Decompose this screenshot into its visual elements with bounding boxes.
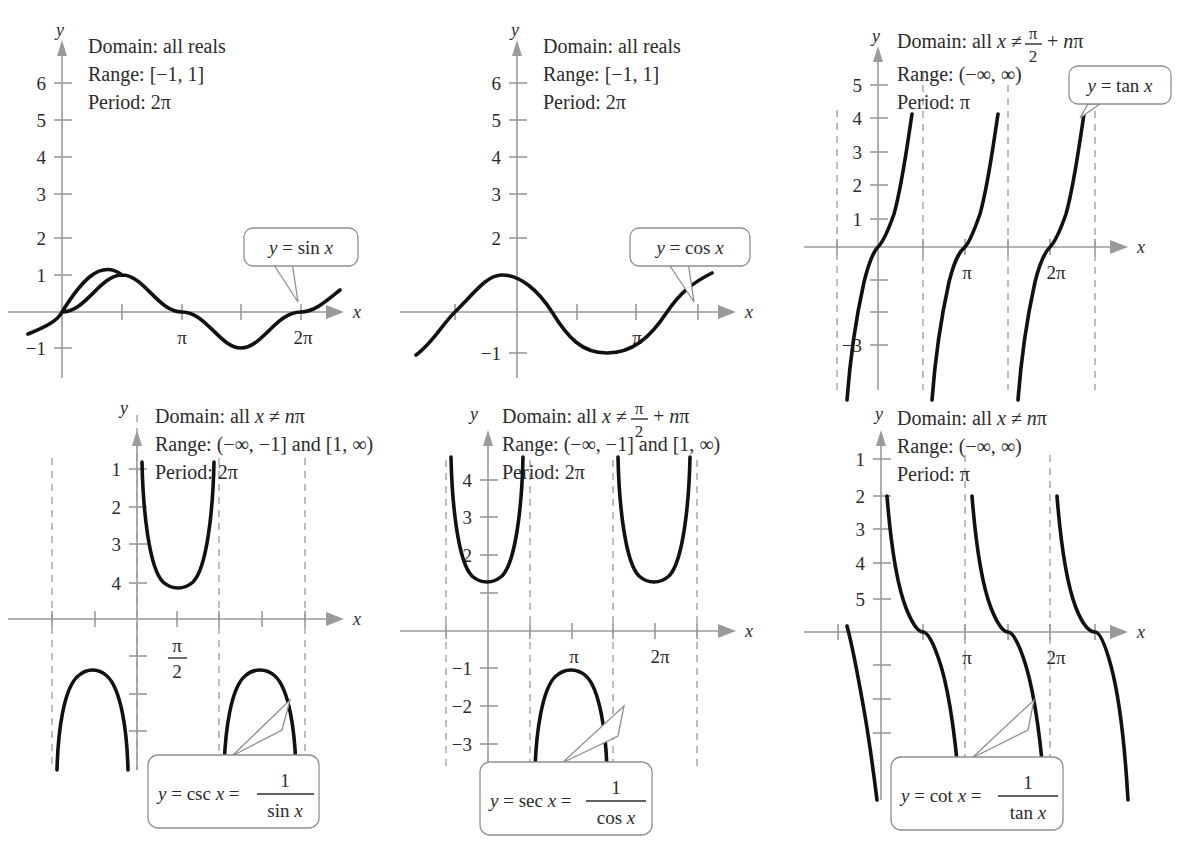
x-tick-label-2pi: 2π: [1046, 647, 1066, 668]
y-tick-label: 3: [856, 519, 866, 540]
y-tick-label: 4: [856, 553, 866, 574]
panel-tangent: 5 4 3 2 1 −3 π 2π x y: [784, 0, 1178, 400]
tangent-branch-2: [932, 114, 998, 400]
x-tick-label-pi: π: [177, 327, 187, 348]
fraction-numerator: 1: [611, 777, 621, 798]
panel-cotangent: 1 2 3 4 5 π 2π x y: [784, 400, 1178, 847]
y-axis-secant: [483, 430, 493, 770]
x-axis-label: x: [1136, 237, 1145, 257]
callout-label-cosine: y = cos x: [654, 237, 724, 258]
asymptotes-tangent: [837, 72, 1095, 390]
fraction-denominator: 2: [172, 661, 182, 682]
callout-cosine: y = cos x: [630, 228, 750, 302]
y-axis-label: y: [54, 20, 64, 40]
y-tick-label: 4: [853, 108, 863, 129]
x-axis-label: x: [744, 621, 753, 641]
info-cosecant: Domain: all x ≠ nπ Range: (−∞, −1] and […: [155, 405, 373, 483]
info-range: Range: [−1, 1]: [88, 63, 204, 86]
info-range: Range: (−∞, −1] and [1, ∞): [155, 433, 373, 456]
y-tick-label: 2: [37, 228, 47, 249]
fraction-numerator: 1: [1023, 772, 1033, 793]
x-axis-secant: [400, 624, 736, 638]
y-axis-cosecant: [132, 430, 142, 770]
tangent-branch-3: [1018, 114, 1084, 400]
info-range: Range: (−∞, ∞): [897, 435, 1022, 458]
y-tick-label: 5: [37, 110, 47, 131]
y-axis-label: y: [509, 20, 519, 40]
x-axis-label: x: [744, 302, 753, 322]
y-axis-label: y: [873, 404, 883, 424]
info-period: Period: π: [897, 463, 970, 485]
y-tick-label: 3: [112, 534, 122, 555]
info-domain: Domain: all x ≠ nπ: [155, 405, 305, 427]
cotangent-branch-2: [972, 496, 1045, 800]
info-domain: Domain: all x ≠: [502, 405, 627, 427]
y-tick-label: −1: [452, 658, 472, 679]
y-tick-label: 5: [492, 110, 502, 131]
y-axis-label: y: [468, 404, 478, 424]
info-domain: Domain: all x ≠: [897, 30, 1022, 52]
y-tick-label: 5: [856, 589, 866, 610]
info-range: Range: (−∞, ∞): [897, 63, 1022, 86]
fraction-numerator: π: [1029, 24, 1038, 43]
x-tick-label-2pi: 2π: [650, 646, 670, 667]
y-tick-label: 2: [112, 497, 122, 518]
info-tangent: Domain: all x ≠ π 2 + nπ Range: (−∞, ∞) …: [897, 24, 1083, 113]
asymptotes-secant: [446, 460, 697, 770]
y-tick-label: 1: [112, 459, 122, 480]
y-axis-cotangent: [876, 430, 886, 800]
cotangent-branch-1: [887, 496, 960, 800]
info-period: Period: π: [897, 91, 970, 113]
y-tick-label: 4: [37, 147, 47, 168]
info-period: Period: 2π: [543, 91, 626, 113]
domain-fraction-tangent: π 2: [1025, 24, 1042, 66]
y-ticks-tangent: [870, 85, 888, 345]
y-tick-label: −1: [26, 338, 46, 359]
x-tick-label-pi: π: [962, 262, 972, 283]
panel-sine: 6 5 4 3 2 1 −1 π 2π x y: [0, 0, 392, 400]
y-axis-sine: [57, 40, 67, 378]
y-tick-label: 6: [37, 73, 47, 94]
y-tick-label: 3: [463, 507, 473, 528]
cotangent-branch-0: [847, 626, 877, 800]
y-tick-label: 1: [37, 265, 47, 286]
y-tick-label: 3: [37, 184, 47, 205]
callout-secant: y = sec x = 1 cos x: [480, 706, 652, 835]
secant-branch-up-2: [618, 457, 690, 582]
x-tick-label-2pi: 2π: [1046, 262, 1066, 283]
info-cotangent: Domain: all x ≠ nπ Range: (−∞, ∞) Period…: [897, 407, 1047, 485]
y-axis-label: y: [118, 398, 128, 418]
y-tick-label: 2: [853, 175, 863, 196]
info-range: Range: [−1, 1]: [543, 63, 659, 86]
x-axis-label: x: [352, 609, 361, 629]
y-tick-label: 3: [492, 184, 502, 205]
y-tick-label: 5: [853, 75, 863, 96]
fraction-denominator: 2: [1029, 47, 1038, 66]
y-tick-label: 6: [492, 73, 502, 94]
y-tick-label: 1: [856, 449, 866, 470]
cotangent-branch-3: [1057, 496, 1128, 800]
fraction-numerator: π: [172, 635, 182, 656]
y-tick-label: 2: [856, 486, 866, 507]
y-tick-label: −3: [452, 734, 472, 755]
y-tick-label: 4: [112, 573, 122, 594]
y-axis-cosine: [512, 40, 522, 378]
info-range: Range: (−∞, −1] and [1, ∞): [502, 433, 720, 456]
y-axis-label: y: [870, 26, 880, 46]
x-tick-label-pi: π: [962, 647, 972, 668]
info-domain-suffix: + nπ: [653, 405, 689, 427]
callout-label-cotangent: y = cot x =: [899, 785, 982, 806]
panel-cosine: 6 5 4 3 2 −1 π x y y = cos x: [392, 0, 784, 400]
y-tick-label: 4: [492, 147, 502, 168]
y-tick-label: 1: [853, 209, 863, 230]
info-sine: Domain: all reals Range: [−1, 1] Period:…: [88, 35, 226, 113]
x-tick-label-pi: π: [569, 646, 579, 667]
x-axis-cosecant: [8, 612, 344, 626]
info-domain: Domain: all reals: [543, 35, 681, 57]
callout-label-sine: y = sin x: [267, 237, 334, 258]
fraction-numerator: π: [635, 399, 644, 418]
x-axis-label: x: [1136, 622, 1145, 642]
x-tick-label-2pi: 2π: [293, 327, 313, 348]
fraction-numerator: 1: [280, 770, 290, 791]
info-domain: Domain: all reals: [88, 35, 226, 57]
